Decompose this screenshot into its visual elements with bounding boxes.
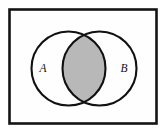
set-label-b: B (120, 62, 127, 74)
set-label-a: A (38, 62, 47, 74)
venn-diagram-canvas: A B (0, 0, 167, 134)
venn-diagram-figure: A B (0, 0, 167, 134)
